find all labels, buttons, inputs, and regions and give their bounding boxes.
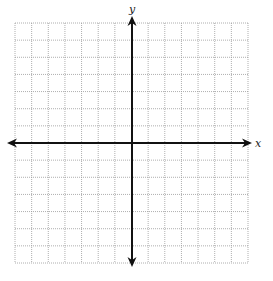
coordinate-grid: y x: [0, 0, 273, 281]
axes: [7, 16, 252, 267]
y-axis-label: y: [128, 3, 136, 16]
x-axis-label: x: [255, 137, 262, 150]
